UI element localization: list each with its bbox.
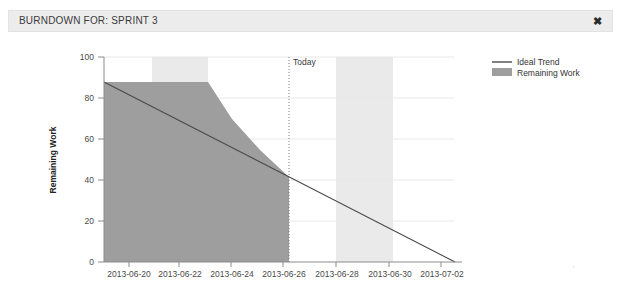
panel-header: BURNDOWN FOR: SPRINT 3 ✖ [8, 10, 613, 32]
y-tick-label-60: 60 [85, 134, 95, 144]
legend-label-remaining-work: Remaining Work [517, 68, 580, 78]
corner-artifact: • [572, 262, 575, 272]
page-title: BURNDOWN FOR: SPRINT 3 [19, 15, 158, 26]
weekend-band-2 [336, 57, 393, 262]
chart-legend: Ideal Trend Remaining Work [492, 57, 580, 78]
x-tick-label-3: 2013-06-24 [210, 269, 254, 279]
x-tick-label-1: 2013-06-20 [107, 269, 151, 279]
burndown-panel: BURNDOWN FOR: SPRINT 3 ✖ T [0, 0, 621, 300]
y-tick-label-100: 100 [80, 52, 94, 62]
burndown-chart: Today 100 80 60 40 20 0 Remaining Work [0, 34, 621, 300]
x-tick-label-4: 2013-06-26 [262, 269, 306, 279]
y-axis-title: Remaining Work [48, 126, 58, 193]
x-axis: 2013-06-20 2013-06-22 2013-06-24 2013-06… [104, 262, 464, 279]
x-tick-label-5: 2013-06-28 [315, 269, 359, 279]
y-tick-label-80: 80 [85, 93, 95, 103]
today-marker-label: Today [293, 57, 316, 67]
close-icon[interactable]: ✖ [593, 13, 602, 29]
chart-canvas: Today 100 80 60 40 20 0 Remaining Work [0, 34, 621, 300]
remaining-work-area [104, 82, 289, 262]
x-tick-label-7: 2013-07-02 [420, 269, 464, 279]
y-tick-label-40: 40 [85, 175, 95, 185]
legend-marker-remaining-work [492, 68, 512, 76]
legend-label-ideal-trend: Ideal Trend [517, 57, 560, 67]
x-tick-label-2: 2013-06-22 [158, 269, 202, 279]
y-tick-label-0: 0 [89, 257, 94, 267]
y-axis: 100 80 60 40 20 0 [80, 52, 104, 267]
x-tick-label-6: 2013-06-30 [368, 269, 412, 279]
y-tick-label-20: 20 [85, 216, 95, 226]
